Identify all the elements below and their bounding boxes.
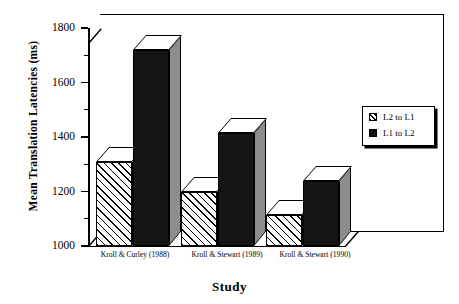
y-tick-major [81, 245, 88, 246]
depth-edge-top-left [88, 28, 102, 44]
legend-item-1-label: L1 to L2 [383, 128, 415, 138]
bar-front-face [303, 181, 339, 246]
y-tick-label: 1200 [33, 185, 75, 197]
y-tick-minor [84, 164, 89, 165]
bar-front-face [218, 133, 254, 246]
bar-front-face [133, 50, 169, 246]
y-tick-label: 1800 [33, 21, 75, 33]
x-axis-title: Study [0, 279, 459, 295]
y-tick-minor [84, 55, 89, 56]
y-axis-line [88, 28, 90, 247]
y-tick-major [81, 82, 88, 83]
y-tick-major [81, 27, 88, 28]
bar-l2-to-l1-group-0 [96, 162, 132, 246]
bar-l2-to-l1-group-1 [181, 192, 217, 247]
bar-l1-to-l2-group-2 [303, 181, 339, 246]
y-tick-minor [84, 109, 89, 110]
bar-front-face [181, 192, 217, 247]
y-axis-title: Mean Translation Latencies (ms) [27, 1, 39, 251]
legend-item-1[interactable]: L1 to L2 [369, 128, 415, 138]
bar-side-face [254, 118, 266, 246]
solid-square-icon [369, 129, 377, 137]
hatched-square-icon [369, 113, 377, 121]
bar-side-face [169, 35, 181, 246]
legend-item-0[interactable]: L2 to L1 [369, 112, 415, 122]
y-tick-major [81, 191, 88, 192]
bar-front-face [266, 215, 302, 246]
y-tick-label: 1400 [33, 130, 75, 142]
bar-l1-to-l2-group-0 [133, 50, 169, 246]
y-tick-minor [84, 218, 89, 219]
y-tick-major [81, 136, 88, 137]
legend-item-0-label: L2 to L1 [383, 112, 415, 122]
bar-l1-to-l2-group-1 [218, 133, 254, 246]
y-tick-label: 1600 [33, 76, 75, 88]
bar-front-face [96, 162, 132, 246]
bar-chart: Mean Translation Latencies (ms) 10001200… [0, 0, 459, 304]
x-axis-label-2: Kroll & Stewart (1990) [240, 250, 390, 259]
legend: L2 to L1 L1 to L2 [362, 106, 435, 146]
bar-l2-to-l1-group-2 [266, 215, 302, 246]
depth-edge-bottom-right [345, 231, 444, 247]
